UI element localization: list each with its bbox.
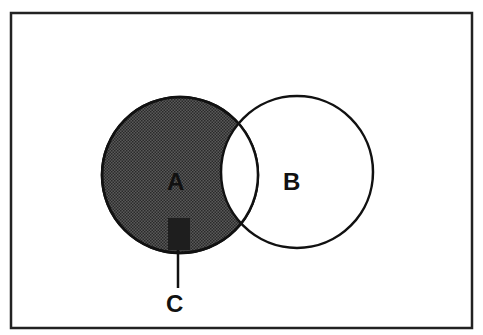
region-c-marker xyxy=(168,218,190,250)
label-b: B xyxy=(283,168,300,195)
venn-diagram: A B C xyxy=(0,0,483,335)
label-c: C xyxy=(166,290,183,317)
label-a: A xyxy=(167,168,184,195)
